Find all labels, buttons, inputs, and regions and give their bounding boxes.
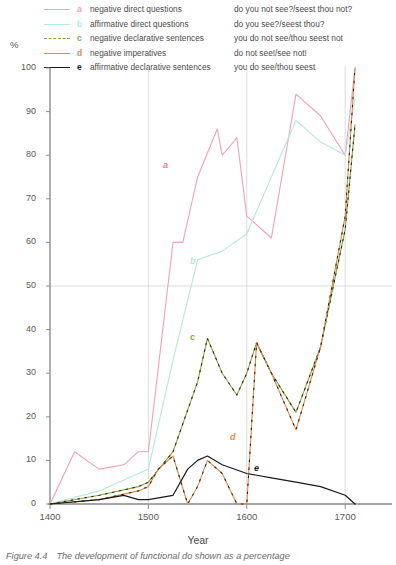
figure-container: anegative direct questionsdo you not see… <box>0 0 396 565</box>
series-line-c <box>50 125 355 504</box>
x-tick-label-1500: 1500 <box>128 511 168 522</box>
y-tick-label-80: 80 <box>12 149 36 159</box>
x-axis-title: Year <box>0 534 396 546</box>
y-tick-label-70: 70 <box>12 193 36 203</box>
series-line-e <box>50 456 355 504</box>
y-tick-label-10: 10 <box>12 454 36 464</box>
curve-label-a: a <box>163 160 168 170</box>
y-tick-label-0: 0 <box>12 498 36 508</box>
chart-plot-area: % 01020304050607080901001400150016001700… <box>0 0 396 530</box>
y-tick-label-30: 30 <box>12 367 36 377</box>
figure-caption: Figure 4.4The development of functional … <box>6 551 290 561</box>
series-line-dash-c <box>50 125 355 504</box>
y-tick-label-100: 100 <box>12 62 36 72</box>
y-tick-label-40: 40 <box>12 324 36 334</box>
y-axis-unit-label: % <box>10 39 18 50</box>
chart-svg <box>0 0 396 530</box>
figure-number: Figure 4.4 <box>6 551 47 561</box>
curve-label-c: c <box>190 332 195 342</box>
x-tick-label-1400: 1400 <box>30 511 70 522</box>
curve-label-b: b <box>190 256 196 266</box>
x-tick-label-1600: 1600 <box>227 511 267 522</box>
y-tick-label-60: 60 <box>12 236 36 246</box>
series-line-b <box>50 99 355 505</box>
y-tick-label-50: 50 <box>12 280 36 290</box>
curve-label-d: d <box>230 432 236 442</box>
curve-label-e: e <box>254 463 259 473</box>
y-tick-label-90: 90 <box>12 106 36 116</box>
y-tick-label-20: 20 <box>12 411 36 421</box>
x-tick-label-1700: 1700 <box>325 511 365 522</box>
figure-caption-text: The development of functional do shown a… <box>56 551 289 561</box>
